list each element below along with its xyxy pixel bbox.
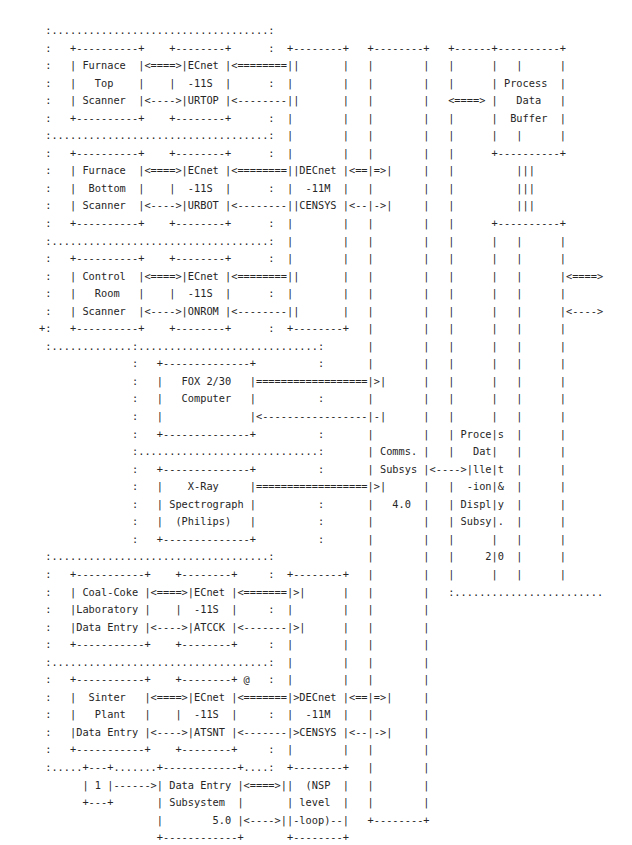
- diagram-canvas: :...................................: : …: [0, 0, 632, 845]
- ascii-block-diagram: :...................................: : …: [39, 22, 603, 845]
